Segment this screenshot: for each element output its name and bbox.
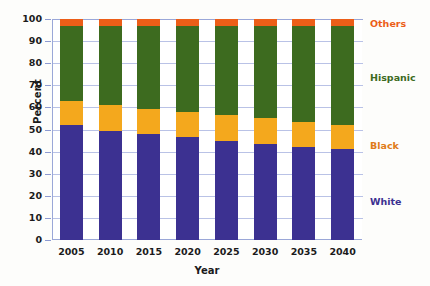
y-axis-tick-mark [45, 41, 51, 42]
y-axis-tick-mark [45, 130, 51, 131]
y-axis-tick-mark [45, 85, 51, 86]
y-axis-tick-label: 10 [12, 212, 42, 223]
gridline [53, 19, 363, 20]
x-axis-tick-label: 2015 [129, 246, 169, 257]
legend-item-others[interactable]: Others [370, 18, 406, 29]
y-axis-title: Percent [32, 67, 43, 137]
gridline [53, 41, 363, 42]
legend-item-black[interactable]: Black [370, 140, 399, 151]
y-axis-tick-label: 20 [12, 190, 42, 201]
y-axis-tick-label: 90 [12, 35, 42, 46]
gridline [53, 218, 363, 219]
x-axis-tick-label: 2005 [51, 246, 91, 257]
gridline [53, 85, 363, 86]
gridline [53, 130, 363, 131]
gridline [53, 107, 363, 108]
x-axis-tick-label: 2010 [90, 246, 130, 257]
gridline [53, 63, 363, 64]
y-axis-tick-mark [45, 174, 51, 175]
x-axis-title: Year [52, 265, 362, 276]
gridline [53, 196, 363, 197]
y-axis-tick-mark [45, 196, 51, 197]
y-axis-tick-label: 100 [12, 13, 42, 24]
y-axis-tick-mark [45, 240, 51, 241]
y-axis-tick-mark [45, 19, 51, 20]
legend-item-hispanic[interactable]: Hispanic [370, 72, 416, 83]
x-axis-tick-label: 2020 [168, 246, 208, 257]
y-axis-tick-label: 0 [12, 234, 42, 245]
plot-area [52, 19, 362, 240]
x-axis-tick-label: 2040 [323, 246, 363, 257]
x-axis-tick-label: 2030 [245, 246, 285, 257]
gridline [53, 152, 363, 153]
x-axis-tick-label: 2035 [284, 246, 324, 257]
y-axis-tick-label: 30 [12, 168, 42, 179]
x-axis-tick-label: 2025 [206, 246, 246, 257]
stacked-bar-chart: Percent 0102030405060708090100 200520102… [0, 0, 430, 286]
y-axis-tick-mark [45, 107, 51, 108]
y-axis-tick-mark [45, 218, 51, 219]
legend-item-white[interactable]: White [370, 196, 401, 207]
y-axis-tick-label: 40 [12, 146, 42, 157]
gridline [53, 174, 363, 175]
y-axis-tick-mark [45, 152, 51, 153]
y-axis-tick-mark [45, 63, 51, 64]
